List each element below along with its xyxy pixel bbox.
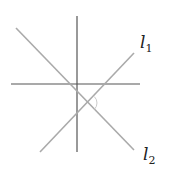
line-l2 [16,28,134,150]
label-l1: l1 [140,32,152,55]
perpendicular-lines-diagram: l1 l2 [0,0,172,175]
label-l2: l2 [143,144,155,167]
right-angle-marker [94,97,97,110]
